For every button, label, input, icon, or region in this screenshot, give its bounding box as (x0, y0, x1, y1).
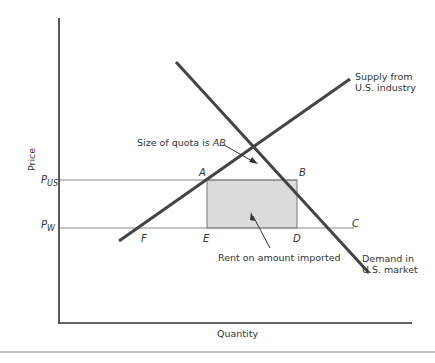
quota-diagram: Price Quantity PUS PW A B C D E F Supply… (0, 0, 435, 363)
quota-arrowhead (249, 157, 258, 164)
point-d-label: D (293, 233, 301, 244)
quota-arrow (224, 145, 254, 162)
point-e-label: E (203, 233, 210, 244)
us-price-label: PUS (41, 174, 58, 188)
y-axis-title: Price (26, 148, 37, 171)
point-a-label: A (198, 167, 206, 178)
rent-area (207, 180, 297, 228)
quota-annotation: Size of quota is AB (137, 137, 226, 148)
point-b-label: B (299, 167, 306, 178)
demand-label: Demand in U.S. market (362, 253, 418, 275)
supply-label: Supply from U.S. industry (355, 71, 416, 93)
point-f-label: F (141, 233, 147, 244)
world-price-label: PW (41, 219, 56, 233)
rent-annotation: Rent on amount imported (218, 252, 341, 263)
x-axis-title: Quantity (217, 328, 258, 339)
point-c-label: C (352, 218, 359, 229)
